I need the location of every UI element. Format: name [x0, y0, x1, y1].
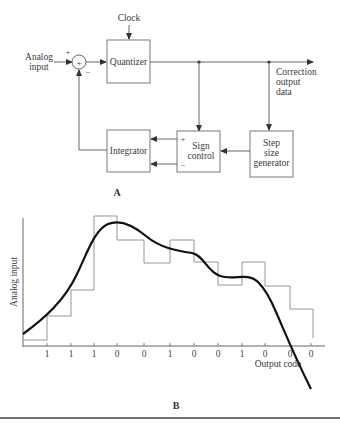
staircase-approximation — [23, 216, 313, 340]
sign-control-label-2: control — [188, 151, 215, 161]
output-label-1: Correction — [276, 67, 317, 77]
summer-plus-sign: + — [66, 48, 71, 57]
code-label: 1 — [168, 349, 173, 359]
analog-input-label-2: input — [29, 62, 49, 72]
caption-a: A — [113, 187, 121, 198]
code-label: 1 — [69, 349, 74, 359]
analog-input-label-1: Analog — [25, 52, 53, 62]
step-size-label-1: Step — [263, 138, 280, 148]
block-diagram-a: Clock Analog input + + − Quantizer Corre… — [25, 13, 317, 198]
code-label: 1 — [45, 349, 50, 359]
integrator-label: Integrator — [110, 146, 148, 156]
summer-minus-sign: − — [86, 68, 91, 77]
figure-canvas: Clock Analog input + + − Quantizer Corre… — [0, 0, 340, 423]
code-label: 1 — [92, 349, 97, 359]
clock-label: Clock — [118, 13, 141, 23]
code-label: 1 — [240, 349, 245, 359]
caption-b: B — [173, 400, 180, 411]
code-label: 0 — [115, 349, 120, 359]
code-label: 0 — [216, 349, 221, 359]
output-label-2: output — [276, 77, 301, 87]
feedback-path — [79, 70, 107, 150]
y-axis-label: Analog input — [9, 257, 19, 307]
sign-control-minus: − — [181, 161, 186, 170]
code-label: 0 — [309, 349, 314, 359]
sign-control-label-1: Sign — [192, 141, 210, 151]
summing-symbol: + — [76, 58, 81, 68]
quantizer-label: Quantizer — [110, 57, 148, 67]
code-label: 0 — [192, 349, 197, 359]
sign-control-plus: + — [181, 135, 186, 144]
code-label: 0 — [263, 349, 268, 359]
step-size-label-2: size — [264, 148, 279, 158]
code-label: 0 — [142, 349, 147, 359]
step-size-label-3: generator — [254, 158, 291, 168]
chart-b: Analog input 1 1 1 0 0 1 0 0 1 0 0 0 Out… — [9, 216, 325, 411]
output-label-3: data — [276, 87, 293, 97]
x-axis-label: Output code — [255, 359, 302, 369]
